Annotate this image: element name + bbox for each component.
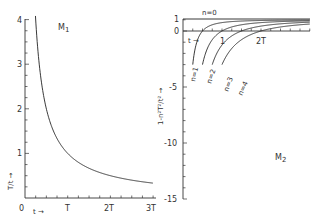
m2-label-n3: n=3 (222, 76, 235, 93)
m1-ytick-1: 1 (17, 149, 22, 158)
figure: 4 3 2 1 0 T 2T 3T t → T/t → M1 1 0 -5 -1… (0, 0, 317, 222)
m2-label-n1: n=1 (189, 66, 200, 82)
m1-xtick-3T: 3T (146, 204, 156, 213)
m2-ytick-neg10: -10 (164, 139, 177, 148)
m1-ytick-4: 4 (17, 16, 22, 25)
m2-xtick-1: 1 (220, 37, 225, 46)
m2-ylabel: 1-n²T²/t² → (157, 88, 165, 125)
m2-ytick-neg15: -15 (164, 195, 177, 204)
m1-panel-label: M1 (58, 23, 69, 34)
m1-curve-T-over-t (35, 16, 152, 183)
m2-panel-label: M2 (275, 153, 286, 164)
m2-ytick-1: 1 (174, 15, 179, 24)
m1-y-ticks (25, 20, 29, 187)
m2-y-ticks (183, 20, 187, 199)
m2-xlabel: t → (188, 37, 199, 45)
m1-xtick-2T: 2T (104, 204, 114, 213)
m2-label-n2: n=2 (205, 68, 217, 85)
m1-xtick-T: T (64, 204, 70, 213)
panel-m2: 1 0 -5 -10 -15 1 2T t → 1-n²T²/t² → n=0 … (157, 9, 310, 204)
panel-m1: 4 3 2 1 0 T 2T 3T t → T/t → M1 (7, 16, 156, 216)
m2-label-n4: n=4 (237, 80, 251, 97)
m1-xtick-0: 0 (19, 204, 24, 213)
m1-ytick-2: 2 (17, 105, 22, 114)
m2-xtick-2T: 2T (256, 37, 266, 46)
m2-ytick-0: 0 (174, 27, 179, 36)
m1-ylabel: T/t → (7, 172, 15, 191)
m1-ytick-3: 3 (17, 60, 22, 69)
m2-label-n0: n=0 (202, 9, 217, 17)
m2-ytick-neg5: -5 (169, 83, 177, 92)
m1-xlabel: t → (33, 208, 44, 216)
